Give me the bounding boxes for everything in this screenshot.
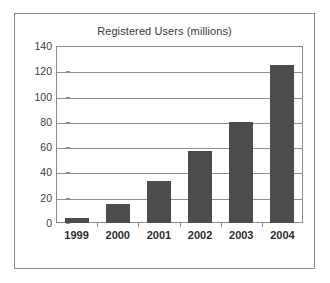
bar[interactable] [106,204,130,223]
x-tick-mark [138,223,139,227]
x-tick-label: 1999 [64,229,88,241]
y-axis: 020406080100120140 [14,46,52,223]
x-tick-mark [262,223,263,227]
bar-slot [262,46,303,223]
x-axis-ticks [56,223,303,228]
y-tick-label: 60 [40,141,52,153]
x-tick-label: 2002 [188,229,212,241]
y-tick-label: 0 [46,217,52,229]
bar-slot [97,46,138,223]
x-tick-mark [97,223,98,227]
bar-slot [56,46,97,223]
x-axis-labels: 199920002001200220032004 [56,229,303,247]
x-tick-label: 2004 [270,229,294,241]
x-tick-mark [221,223,222,227]
bars-group [56,46,303,223]
x-tick-mark [180,223,181,227]
y-tick-label: 140 [34,40,52,52]
bar[interactable] [270,65,294,223]
y-tick-label: 120 [34,65,52,77]
chart-figure: Registered Users (millions) 020406080100… [0,0,330,283]
y-tick-label: 40 [40,166,52,178]
bar[interactable] [188,151,212,223]
bar-slot [138,46,179,223]
bar-slot [180,46,221,223]
chart-title: Registered Users (millions) [14,25,315,37]
x-tick-label: 2000 [106,229,130,241]
bar[interactable] [229,122,253,223]
bar-slot [221,46,262,223]
y-tick-label: 100 [34,91,52,103]
y-tick-label: 20 [40,192,52,204]
x-tick-label: 2003 [229,229,253,241]
bar[interactable] [147,181,171,223]
x-tick-label: 2001 [147,229,171,241]
y-tick-label: 80 [40,116,52,128]
